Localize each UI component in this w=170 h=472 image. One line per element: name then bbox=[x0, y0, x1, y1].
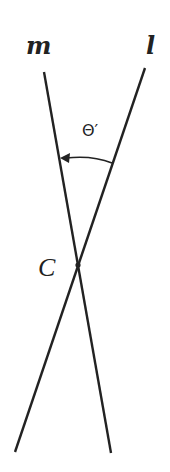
line-m-label: m bbox=[26, 31, 51, 60]
arrowhead-icon bbox=[60, 153, 70, 163]
line-intersection-diagram: m l Θ′ C bbox=[0, 0, 170, 472]
angle-arc bbox=[66, 157, 112, 163]
intersection-label: C bbox=[38, 253, 56, 282]
angle-label: Θ′ bbox=[82, 121, 99, 140]
line-l bbox=[15, 68, 145, 452]
line-l-label: l bbox=[146, 31, 155, 60]
intersection-point bbox=[75, 262, 80, 267]
